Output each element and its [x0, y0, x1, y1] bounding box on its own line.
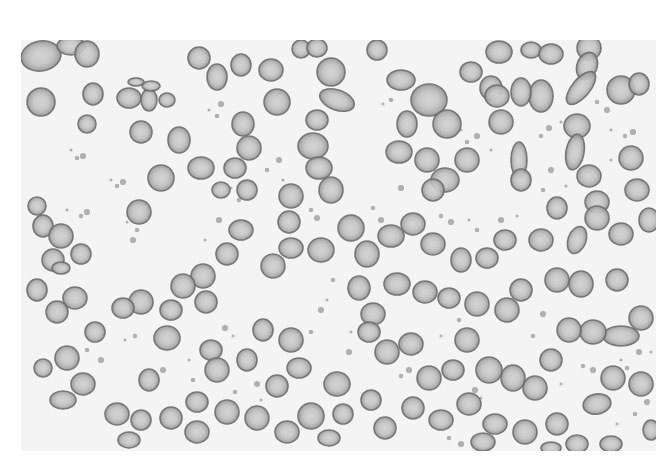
- blood-smear-micrograph: [21, 40, 656, 451]
- red-blood-cell: [130, 121, 152, 143]
- platelet: [160, 367, 166, 373]
- red-blood-cell: [75, 41, 99, 67]
- platelet: [623, 134, 628, 139]
- red-blood-cell: [494, 230, 516, 250]
- red-blood-cell: [52, 262, 70, 274]
- red-blood-cell: [585, 206, 609, 230]
- platelet: [115, 184, 120, 189]
- platelet: [80, 153, 86, 159]
- red-blood-cell: [261, 254, 285, 278]
- red-blood-cell: [34, 359, 52, 377]
- platelet: [448, 219, 454, 225]
- red-blood-cell: [609, 223, 633, 245]
- red-blood-cell: [378, 225, 404, 247]
- red-blood-cell: [455, 148, 479, 172]
- red-blood-cell: [384, 273, 410, 295]
- red-blood-cell: [83, 83, 103, 105]
- red-blood-cell: [275, 421, 299, 443]
- platelet: [204, 239, 207, 242]
- red-blood-cell: [601, 366, 625, 390]
- red-blood-cell: [401, 213, 425, 235]
- red-blood-cell: [600, 436, 622, 451]
- red-blood-cell: [625, 179, 649, 201]
- red-blood-cell: [547, 197, 567, 219]
- platelet: [70, 149, 73, 152]
- platelet: [378, 217, 384, 223]
- platelet: [120, 179, 126, 185]
- platelet: [616, 423, 619, 426]
- red-blood-cell: [224, 158, 246, 178]
- red-blood-cell: [319, 177, 343, 203]
- platelet: [560, 383, 563, 386]
- platelet: [398, 185, 404, 191]
- red-blood-cell: [361, 390, 381, 410]
- red-blood-cell: [639, 208, 656, 232]
- red-blood-cell: [457, 393, 481, 415]
- red-blood-cell: [232, 112, 254, 136]
- platelet: [474, 133, 480, 139]
- red-blood-cell: [324, 372, 350, 396]
- platelet: [66, 209, 69, 212]
- platelet: [84, 209, 90, 215]
- platelet: [581, 364, 586, 369]
- red-blood-cell: [471, 433, 495, 451]
- platelet: [644, 399, 650, 405]
- red-blood-cell: [205, 358, 229, 382]
- platelet: [188, 359, 191, 362]
- platelet: [110, 179, 113, 182]
- red-blood-cell: [442, 360, 464, 380]
- red-blood-cell: [629, 73, 649, 95]
- platelet: [326, 299, 329, 302]
- red-blood-cell: [85, 322, 105, 342]
- platelet: [276, 157, 282, 163]
- platelet: [620, 359, 623, 362]
- red-blood-cell: [159, 93, 175, 107]
- platelet: [458, 441, 464, 447]
- platelet: [516, 215, 519, 218]
- platelet: [610, 159, 613, 162]
- red-blood-cell: [148, 165, 174, 191]
- platelet: [346, 349, 352, 355]
- red-blood-cell: [279, 328, 303, 352]
- red-blood-cell: [298, 403, 324, 429]
- red-blood-cell: [117, 88, 141, 108]
- red-blood-cell: [171, 274, 195, 298]
- red-blood-cell: [118, 432, 140, 448]
- platelet: [650, 351, 653, 354]
- platelet: [610, 129, 613, 132]
- red-blood-cell: [139, 369, 159, 391]
- platelet: [389, 98, 394, 103]
- red-blood-cell: [476, 248, 498, 268]
- red-blood-cell: [279, 184, 303, 208]
- red-blood-cell: [264, 89, 290, 115]
- red-blood-cell: [455, 328, 479, 352]
- red-blood-cell: [541, 442, 561, 451]
- red-blood-cell: [338, 215, 364, 241]
- platelet: [350, 331, 353, 334]
- platelet: [318, 307, 324, 313]
- red-blood-cell: [307, 40, 327, 57]
- red-blood-cell: [483, 414, 507, 434]
- red-blood-cell: [523, 376, 547, 400]
- red-blood-cell: [131, 410, 151, 430]
- red-blood-cell: [308, 238, 334, 262]
- red-blood-cell: [71, 244, 91, 264]
- platelet: [625, 366, 630, 371]
- red-blood-cell: [287, 358, 311, 378]
- platelet: [490, 149, 493, 152]
- red-blood-cell: [539, 44, 563, 64]
- red-blood-cell: [49, 224, 73, 248]
- platelet: [232, 335, 235, 338]
- platelet: [282, 179, 285, 182]
- red-blood-cell: [489, 110, 513, 134]
- red-blood-cell: [317, 58, 345, 86]
- red-blood-cell: [387, 70, 415, 90]
- red-blood-cell: [413, 281, 437, 303]
- red-blood-cell: [603, 326, 639, 346]
- red-blood-cell: [465, 292, 489, 316]
- red-blood-cell: [566, 435, 588, 451]
- platelet: [457, 318, 462, 323]
- platelet: [539, 134, 544, 139]
- red-blood-cell: [188, 157, 214, 179]
- red-blood-cell: [160, 300, 182, 320]
